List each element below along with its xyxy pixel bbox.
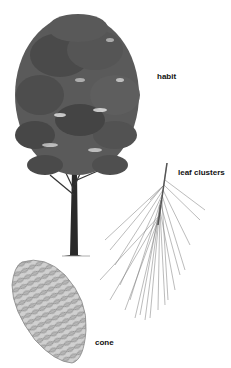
label-cone: cone [95, 338, 114, 347]
label-habit: habit [157, 72, 176, 81]
label-leaf-clusters: leaf clusters [178, 168, 225, 177]
cone-illustration [0, 0, 231, 368]
botanical-illustration: habit leaf clusters cone [0, 0, 231, 368]
